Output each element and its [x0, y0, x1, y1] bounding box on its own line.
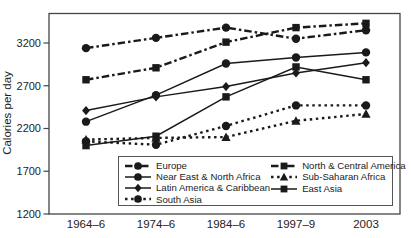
circle-marker: [292, 101, 300, 109]
legend-item-near-east-north-africa: Near East & North Africa: [124, 171, 270, 182]
east-asia-line-sample-icon: [270, 184, 298, 194]
square-marker: [362, 20, 369, 27]
circle-marker: [292, 35, 300, 43]
near-east-line-sample-icon: [124, 172, 152, 182]
y-axis-tick-label: 1200: [17, 208, 41, 220]
x-axis-tick-label: 2003: [353, 218, 379, 230]
square-marker: [362, 76, 369, 83]
circle-marker: [222, 59, 230, 67]
circle-marker: [82, 44, 90, 52]
square-marker: [152, 132, 159, 139]
diamond-marker: [362, 58, 370, 67]
legend-label: East Asia: [302, 184, 342, 194]
square-marker: [281, 162, 288, 169]
square-marker: [82, 142, 89, 149]
legend-item-sub-saharan-africa: Sub-Saharan Africa: [270, 172, 405, 184]
circle-marker: [222, 122, 230, 130]
north-central-america-line-sample-icon: [270, 161, 298, 171]
square-marker: [82, 76, 89, 83]
europe-line-sample-icon: [124, 161, 152, 171]
y-axis: 32002700220017001200: [17, 37, 49, 220]
legend-label: Latin America & Caribbean: [156, 183, 270, 193]
circle-marker: [292, 53, 300, 61]
square-marker: [292, 63, 299, 70]
triangle-marker: [221, 132, 230, 141]
y-axis-tick-label: 3200: [17, 37, 41, 49]
square-marker: [152, 64, 159, 71]
diamond-marker: [222, 82, 230, 91]
circle-marker: [152, 34, 160, 42]
series-europe: [82, 23, 370, 52]
x-axis-tick-label: 1964–6: [67, 218, 105, 230]
south-asia-line-sample-icon: [124, 194, 152, 204]
triangle-marker: [361, 109, 370, 118]
circle-marker: [222, 23, 230, 31]
circle-marker: [134, 196, 142, 204]
diamond-marker: [82, 106, 90, 115]
circle-marker: [82, 117, 90, 125]
legend-item-south-asia: South Asia: [124, 194, 270, 205]
circle-marker: [134, 162, 142, 170]
legend-label: South Asia: [156, 195, 202, 205]
y-axis-tick-label: 2700: [17, 80, 41, 92]
calories-per-day-figure: Calories per day 32002700220017001200196…: [0, 0, 411, 238]
square-marker: [292, 24, 299, 31]
legend-column-right: North & Central America Sub-Saharan Afri…: [270, 160, 405, 205]
legend-label: Sub-Saharan Africa: [302, 172, 385, 182]
x-axis: 1964–61974–61984–61997–92003: [67, 218, 379, 230]
y-axis-tick-label: 2200: [17, 122, 41, 134]
x-axis-tick-label: 1984–6: [207, 218, 245, 230]
latin-america-line-sample-icon: [124, 183, 152, 193]
legend-column-left: Europe Near East & North Africa Latin Am…: [124, 160, 270, 205]
x-axis-tick-label: 1974–6: [137, 218, 175, 230]
circle-marker: [362, 48, 370, 56]
legend-item-europe: Europe: [124, 160, 270, 171]
triangle-marker: [280, 173, 288, 181]
series-south-asia: [82, 101, 370, 149]
legend-label: North & Central America: [302, 161, 405, 171]
chart-legend: Europe Near East & North Africa Latin Am…: [118, 156, 393, 206]
square-marker: [222, 38, 229, 45]
legend-label: Near East & North Africa: [156, 172, 261, 182]
circle-marker: [362, 101, 370, 109]
diamond-marker: [134, 184, 141, 192]
square-marker: [222, 93, 229, 100]
y-axis-tick-label: 1700: [17, 165, 41, 177]
circle-marker: [134, 173, 142, 181]
legend-label: Europe: [156, 161, 187, 171]
legend-item-north-central-america: North & Central America: [270, 160, 405, 172]
legend-item-latin-america-caribbean: Latin America & Caribbean: [124, 183, 270, 194]
y-axis-title: Calories per day: [1, 71, 13, 155]
legend-item-east-asia: East Asia: [270, 183, 405, 195]
x-axis-tick-label: 1997–9: [277, 218, 315, 230]
square-marker: [281, 185, 288, 192]
sub-saharan-africa-line-sample-icon: [270, 172, 298, 182]
circle-marker: [362, 26, 370, 34]
